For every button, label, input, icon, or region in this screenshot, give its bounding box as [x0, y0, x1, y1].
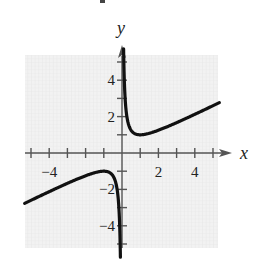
x-axis-label: x [239, 143, 248, 163]
y-tick-label: −4 [99, 218, 115, 234]
function-graph: x y −424 42−2−4 [0, 0, 260, 264]
y-tick-label: −2 [99, 181, 115, 197]
x-tick-label: 2 [155, 164, 163, 180]
x-tick-label: 4 [191, 164, 199, 180]
y-tick-label: 4 [108, 72, 116, 88]
y-axis-label: y [115, 18, 125, 38]
y-tick-label: 2 [108, 109, 116, 125]
x-tick-label: −4 [41, 164, 57, 180]
